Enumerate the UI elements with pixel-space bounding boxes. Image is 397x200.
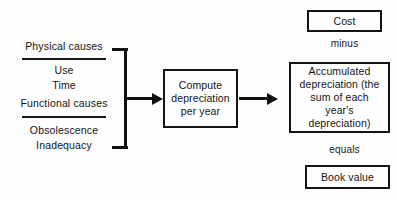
box-compute-depreciation: Compute depreciation per year — [163, 69, 238, 128]
cause-time: Time — [22, 79, 106, 91]
cause-physical-causes: Physical causes — [22, 40, 106, 52]
box-accumulated-depreciation: Accumulated depreciation (the sum of eac… — [289, 62, 390, 133]
cause-obsolescence: Obsolescence — [20, 124, 108, 136]
cause-inadequacy: Inadequacy — [20, 139, 108, 151]
arrow-causes-to-compute-shaft — [126, 97, 154, 100]
box-book-value-label: Book value — [317, 171, 378, 184]
bracket-bottom-stub — [112, 146, 128, 149]
depreciation-flowchart: Physical causes Use Time Functional caus… — [0, 0, 397, 200]
box-accumulated-depreciation-label: Accumulated depreciation (the sum of eac… — [291, 65, 388, 130]
arrow-causes-to-compute-head — [152, 93, 163, 105]
cause-divider-top — [22, 58, 106, 60]
connector-equals: equals — [307, 144, 382, 155]
box-compute-depreciation-label: Compute depreciation per year — [165, 79, 236, 118]
connector-minus: minus — [307, 38, 382, 49]
box-cost: Cost — [307, 10, 382, 32]
arrow-compute-to-accumulated-head — [267, 93, 278, 105]
cause-functional-causes: Functional causes — [18, 97, 110, 109]
arrow-compute-to-accumulated-shaft — [239, 97, 269, 100]
cause-divider-bottom — [22, 116, 106, 118]
cause-use: Use — [22, 64, 106, 76]
box-book-value: Book value — [305, 165, 390, 189]
box-cost-label: Cost — [330, 15, 360, 28]
